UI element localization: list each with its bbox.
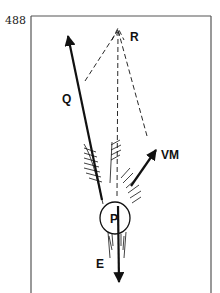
quadriceps-vector-arrow bbox=[68, 36, 102, 200]
label-vm: VM bbox=[161, 148, 179, 162]
label-r: R bbox=[130, 30, 139, 44]
figure-frame bbox=[31, 16, 211, 293]
label-p: P bbox=[110, 212, 118, 226]
label-e: E bbox=[96, 257, 104, 271]
vastus-medialis-vector-arrow bbox=[131, 150, 156, 186]
force-diagram: Q R VM P E bbox=[0, 0, 220, 293]
label-q: Q bbox=[62, 92, 71, 106]
extensor-vector-arrow bbox=[118, 206, 119, 282]
